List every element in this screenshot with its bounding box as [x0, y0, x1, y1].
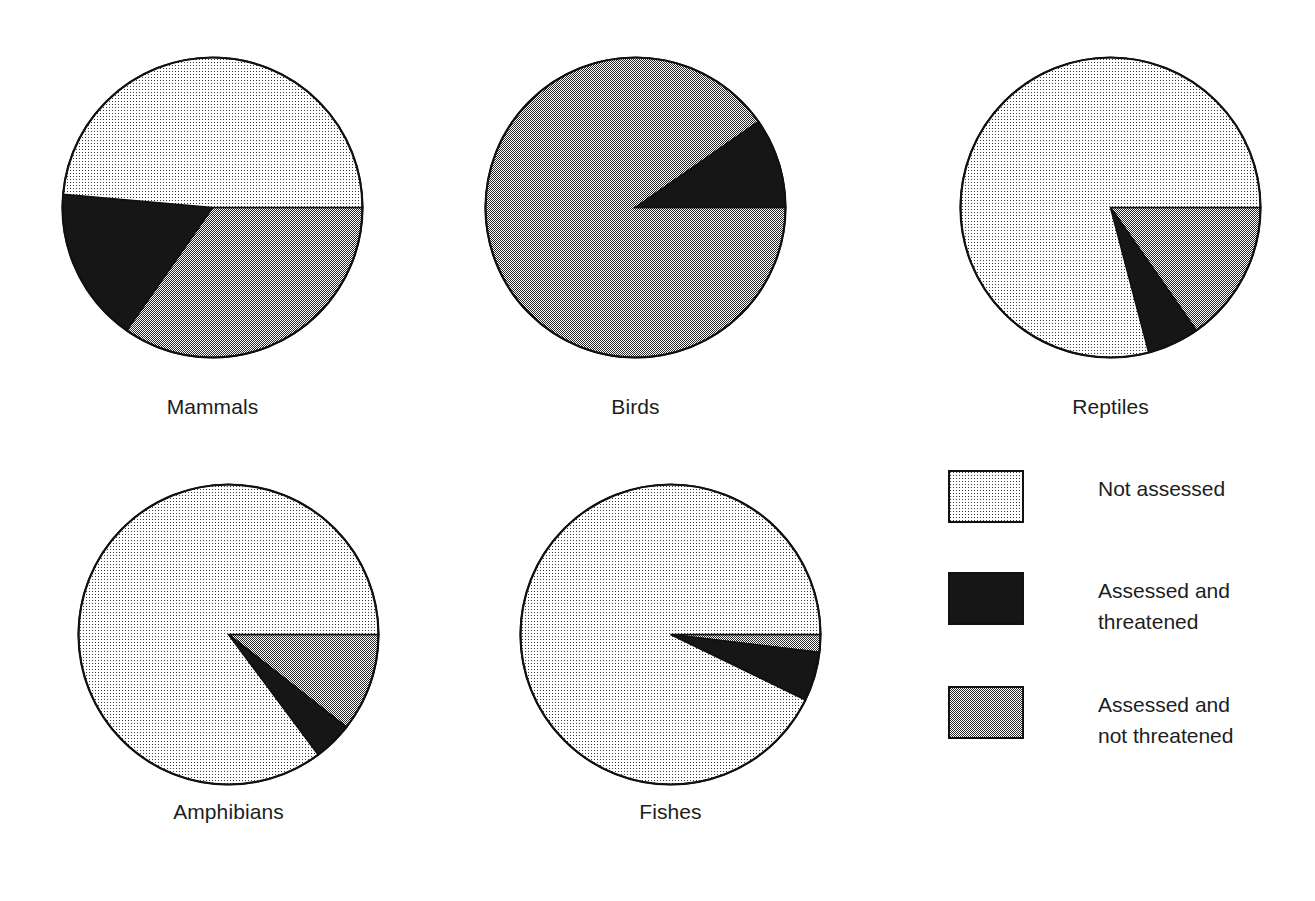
pie-svg-amphibians	[71, 477, 386, 792]
legend-label-not-assessed: Not assessed	[1098, 470, 1225, 504]
legend-swatch-not-assessed	[948, 470, 1024, 523]
pie-svg-mammals	[55, 50, 370, 365]
pie-slices-birds	[486, 58, 786, 358]
pie-chart-amphibians	[71, 477, 386, 792]
pie-svg-birds	[478, 50, 793, 365]
legend-row-assessed-not-threatened: Assessed and not threatened	[948, 686, 1308, 751]
pie-chart-reptiles	[953, 50, 1268, 365]
slice-mammals-not-assessed	[63, 57, 362, 207]
legend-label-assessed-not-threatened: Assessed and not threatened	[1098, 686, 1233, 751]
pie-slices-fishes	[521, 485, 821, 785]
slice-fishes-not-assessed	[521, 485, 821, 785]
legend-swatch-assessed-not-threatened	[948, 686, 1024, 739]
pie-label-fishes: Fishes	[513, 800, 828, 824]
pie-chart-birds	[478, 50, 793, 365]
pie-slices-amphibians	[79, 485, 379, 785]
chart-legend: Not assessed Assessed and threatened Ass…	[948, 470, 1308, 800]
pie-slices-reptiles	[961, 58, 1261, 358]
pie-label-amphibians: Amphibians	[71, 800, 386, 824]
pie-label-birds: Birds	[478, 395, 793, 419]
legend-row-not-assessed: Not assessed	[948, 470, 1308, 523]
pie-slices-mammals	[63, 57, 363, 357]
pie-label-mammals: Mammals	[55, 395, 370, 419]
pie-svg-fishes	[513, 477, 828, 792]
pie-svg-reptiles	[953, 50, 1268, 365]
legend-swatch-assessed-threatened	[948, 572, 1024, 625]
pie-chart-mammals	[55, 50, 370, 365]
figure-canvas: Mammals Birds Reptiles	[0, 0, 1315, 901]
legend-row-assessed-threatened: Assessed and threatened	[948, 572, 1308, 637]
legend-label-assessed-threatened: Assessed and threatened	[1098, 572, 1230, 637]
pie-label-reptiles: Reptiles	[953, 395, 1268, 419]
pie-chart-fishes	[513, 477, 828, 792]
